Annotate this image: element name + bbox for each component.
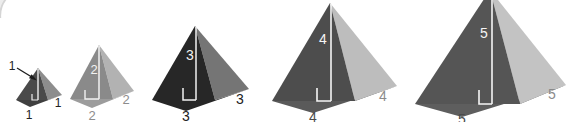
pyramid-diagram-canvas: 1 1 1 2 2 2 3 3 3 (0, 0, 576, 122)
pyramid-3-slant-label: 3 (236, 91, 244, 107)
pyramid-2-height-label: 2 (90, 62, 97, 77)
pyramid-2: 2 2 2 (70, 45, 134, 122)
pyramid-3-base-label: 3 (182, 108, 190, 122)
pyramid-2-base-label: 2 (88, 108, 95, 122)
pyramid-1: 1 1 1 (9, 59, 62, 122)
pyramid-5: 5 5 5 (415, 0, 566, 122)
top-left-corner-arc (0, 0, 33, 22)
pyramid-3-height-label: 3 (186, 47, 194, 63)
pyramid-5-base-label: 5 (458, 111, 466, 122)
pyramid-5-height-label: 5 (480, 25, 488, 41)
pyramid-4: 4 4 4 (272, 3, 397, 122)
pyramid-1-height-label: 1 (9, 59, 16, 73)
pyramid-5-slant-label: 5 (548, 86, 556, 102)
pyramid-2-slant-label: 2 (122, 92, 129, 107)
pyramid-3: 3 3 3 (152, 26, 249, 122)
pyramid-4-slant-label: 4 (379, 88, 387, 104)
pyramid-4-base-label: 4 (309, 109, 317, 122)
pyramid-1-slant-label: 1 (55, 96, 62, 110)
pyramid-4-height-label: 4 (319, 31, 327, 47)
pyramid-1-base-label: 1 (26, 108, 33, 122)
pyramid-figure: 1 1 1 2 2 2 3 3 3 (0, 0, 576, 122)
